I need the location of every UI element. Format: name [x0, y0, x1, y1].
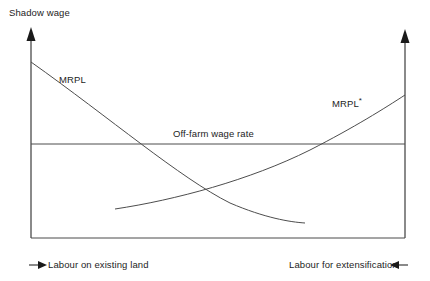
legend-left-arrow-group [29, 261, 47, 269]
off-farm-wage-label: Off-farm wage rate [173, 129, 254, 139]
y-axis-label: Shadow wage [9, 8, 70, 18]
mrpl-star-base: MRPL [332, 98, 359, 109]
left-axis [27, 27, 36, 238]
shadow-wage-diagram: Shadow wage MRPL Off-farm wage rate MRPL… [0, 0, 430, 281]
mrpl-star-curve-label: MRPL* [332, 99, 362, 109]
diagram-canvas [0, 0, 430, 281]
legend-left-label: Labour on existing land [48, 260, 149, 270]
mrpl-star-curve [115, 95, 405, 209]
left-axis-arrow-icon [27, 27, 36, 41]
mrpl-curve-label: MRPL [59, 75, 86, 85]
arrow-right-icon [38, 261, 47, 269]
legend-right-label: Labour for extensification [289, 260, 398, 270]
mrpl-star-superscript: * [359, 96, 362, 105]
right-axis-arrow-icon [401, 29, 410, 43]
right-axis [401, 29, 410, 238]
